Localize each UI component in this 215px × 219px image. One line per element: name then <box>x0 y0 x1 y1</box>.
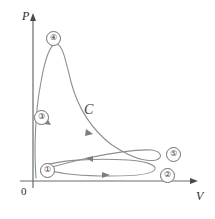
cycle-upper-branch <box>35 44 160 178</box>
direction-marker-upper-right <box>85 129 93 136</box>
curve-label-c: C <box>84 103 93 117</box>
state-marker-1: ① <box>40 163 55 178</box>
diagram-canvas <box>0 0 215 219</box>
v-axis-arrowhead <box>190 178 198 184</box>
p-axis-arrowhead <box>30 13 36 21</box>
state-marker-4: ④ <box>46 31 61 46</box>
direction-marker-loop-top <box>86 156 93 162</box>
cycle-lower-loop <box>45 159 155 176</box>
pv-cycle-figure: P V 0 C ① ② ③ ④ ⑤ <box>0 0 215 219</box>
v-axis-label: V <box>196 190 203 202</box>
state-marker-3: ③ <box>34 110 49 125</box>
p-axis-label: P <box>22 10 29 22</box>
direction-marker-loop-bottom <box>102 172 110 178</box>
state-marker-5: ⑤ <box>166 147 181 162</box>
state-marker-2: ② <box>160 168 175 183</box>
origin-label: 0 <box>21 186 27 197</box>
